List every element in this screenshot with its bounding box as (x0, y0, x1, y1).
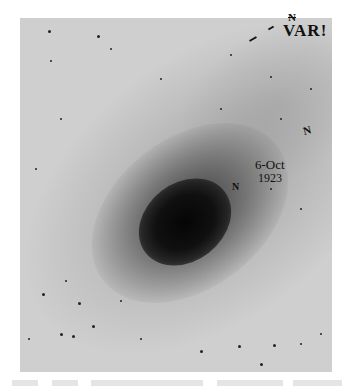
star (220, 108, 222, 110)
star (160, 78, 162, 80)
star (50, 60, 52, 62)
star (42, 293, 45, 296)
star (65, 280, 67, 282)
star (238, 345, 241, 348)
star (72, 335, 75, 338)
star (60, 118, 62, 120)
star (300, 343, 302, 345)
star (200, 350, 203, 353)
star (78, 302, 81, 305)
star (35, 168, 37, 170)
figure-caption (12, 380, 342, 386)
star (260, 363, 263, 366)
star (310, 88, 312, 90)
star (92, 325, 95, 328)
photographic-plate (20, 18, 332, 372)
star (320, 333, 322, 335)
star (97, 35, 100, 38)
star (28, 338, 30, 340)
star (273, 344, 276, 347)
star (110, 48, 112, 50)
star (140, 338, 142, 340)
star (120, 300, 122, 302)
star (300, 208, 302, 210)
annotation-n-core: N (232, 181, 239, 192)
star (270, 76, 272, 78)
star (60, 333, 63, 336)
star (48, 30, 51, 33)
star (280, 118, 282, 120)
star (230, 54, 232, 56)
star (270, 188, 272, 190)
annotation-var: VAR! (283, 21, 327, 41)
annotation-date-year: 1923 (258, 171, 282, 186)
